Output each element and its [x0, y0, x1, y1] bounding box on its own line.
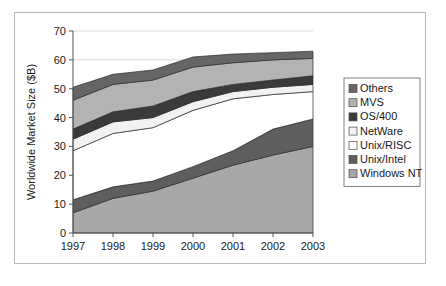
legend-label: Unix/RISC [360, 139, 411, 151]
x-tick-label: 1997 [61, 240, 85, 252]
stacked-area-chart: 0102030405060701997199819992000200120022… [0, 0, 446, 286]
legend-swatch [349, 141, 357, 149]
legend-label: Others [360, 82, 394, 94]
y-tick-label: 40 [54, 112, 66, 124]
y-tick-label: 10 [54, 198, 66, 210]
y-axis-title: Worldwide Market Size ($B) [25, 64, 37, 200]
legend-swatch [349, 85, 357, 93]
chart-svg: 0102030405060701997199819992000200120022… [0, 0, 446, 286]
y-tick-label: 0 [60, 227, 66, 239]
y-tick-label: 60 [54, 54, 66, 66]
x-tick-label: 2002 [261, 240, 285, 252]
x-tick-label: 1999 [141, 240, 165, 252]
figure-canvas: 0102030405060701997199819992000200120022… [0, 0, 446, 286]
legend-label: Windows NT [360, 167, 423, 179]
y-axis: 010203040506070 [54, 25, 73, 239]
legend-swatch [349, 156, 357, 164]
x-tick-label: 2001 [221, 240, 245, 252]
x-tick-label: 2003 [301, 240, 325, 252]
y-tick-label: 70 [54, 25, 66, 37]
area-bands [73, 51, 313, 233]
legend-item[interactable]: Windows NT [349, 167, 423, 179]
y-tick-label: 20 [54, 169, 66, 181]
legend-label: MVS [360, 96, 384, 108]
x-axis: 1997199819992000200120022003 [61, 233, 325, 252]
legend-swatch [349, 170, 357, 178]
y-tick-label: 50 [54, 83, 66, 95]
legend-swatch [349, 99, 357, 107]
legend-swatch [349, 113, 357, 121]
x-tick-label: 1998 [101, 240, 125, 252]
legend-label: Unix/Intel [360, 153, 406, 165]
legend-swatch [349, 127, 357, 135]
y-tick-label: 30 [54, 140, 66, 152]
legend-label: NetWare [360, 125, 403, 137]
x-tick-label: 2000 [181, 240, 205, 252]
legend: OthersMVSOS/400NetWareUnix/RISCUnix/Inte… [344, 78, 423, 186]
legend-label: OS/400 [360, 110, 397, 122]
